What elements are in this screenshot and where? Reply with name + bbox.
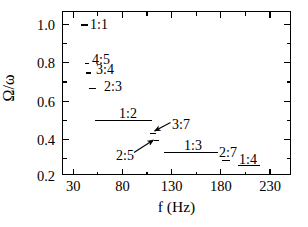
xtick-major-130 — [171, 169, 172, 175]
ytick-right-major-0.4 — [284, 139, 290, 140]
plateau-label-3-4: 3:4 — [96, 63, 114, 77]
xtick-minor-155 — [196, 172, 197, 176]
plateau-label-2-5: 2:5 — [116, 149, 134, 163]
plateau-3-7 — [150, 133, 156, 134]
xtick-top-minor-55 — [97, 12, 98, 16]
xtick-top-minor-105 — [146, 12, 147, 16]
xtick-minor-55 — [97, 172, 98, 176]
xtick-label-180: 180 — [201, 179, 241, 194]
ytick-right-minor-0.3 — [287, 158, 291, 159]
plateau-label-1-4: 1:4 — [239, 153, 257, 167]
plateau-label-3-7: 3:7 — [172, 118, 190, 132]
x-axis-title: f (Hz) — [62, 199, 291, 215]
ytick-right-minor-0.9 — [287, 43, 291, 44]
ytick-major-0.4 — [63, 139, 69, 140]
plateau-2-5 — [154, 140, 160, 141]
plateau-3-4 — [86, 72, 91, 73]
xtick-top-major-230 — [269, 12, 270, 18]
plot-frame — [62, 11, 291, 175]
ytick-right-major-0.8 — [284, 62, 290, 63]
plateau-label-2-7: 2:7 — [219, 146, 237, 160]
ytick-label-1.0: 1.0 — [19, 18, 55, 33]
xtick-label-30: 30 — [53, 179, 93, 194]
plateau-2-3 — [89, 88, 96, 89]
plateau-label-1-3: 1:3 — [184, 139, 202, 153]
ytick-right-major-0.6 — [284, 101, 290, 102]
ytick-minor-0.9 — [63, 43, 67, 44]
ytick-right-minor-0.7 — [287, 81, 291, 82]
ytick-minor-0.5 — [63, 120, 67, 121]
xtick-minor-105 — [146, 172, 147, 176]
ytick-major-0.6 — [63, 101, 69, 102]
ytick-label-0.2: 0.2 — [19, 169, 55, 184]
xtick-major-30 — [73, 169, 74, 175]
ytick-major-0.8 — [63, 62, 69, 63]
ytick-major-1.0 — [63, 24, 69, 25]
xtick-top-major-80 — [122, 12, 123, 18]
ytick-label-0.4: 0.4 — [19, 133, 55, 148]
xtick-major-80 — [122, 169, 123, 175]
xtick-minor-205 — [245, 172, 246, 176]
xtick-top-major-180 — [220, 12, 221, 18]
ytick-right-minor-0.5 — [287, 120, 291, 121]
y-axis-title: Ω/ω — [1, 58, 17, 118]
xtick-top-minor-155 — [196, 12, 197, 16]
plateau-4-5 — [85, 63, 89, 64]
xtick-major-180 — [220, 169, 221, 175]
plateau-1-1 — [81, 24, 88, 25]
xtick-label-130: 130 — [152, 179, 192, 194]
plateau-label-1-2: 1:2 — [119, 107, 137, 121]
ytick-label-0.8: 0.8 — [19, 56, 55, 71]
xtick-top-major-30 — [73, 12, 74, 18]
figure-devils-staircase: 1.0 0.8 0.6 0.4 0.2 30 80 130 180 230 f … — [0, 0, 308, 227]
xtick-top-minor-205 — [245, 12, 246, 16]
ytick-label-0.6: 0.6 — [19, 95, 55, 110]
ytick-minor-0.3 — [63, 158, 67, 159]
xtick-major-230 — [269, 169, 270, 175]
xtick-label-230: 230 — [250, 179, 290, 194]
plateau-2-7 — [222, 160, 230, 161]
plateau-label-1-1: 1:1 — [90, 18, 108, 32]
plateau-label-2-3: 2:3 — [104, 80, 122, 94]
xtick-label-80: 80 — [102, 179, 142, 194]
xtick-top-major-130 — [171, 12, 172, 18]
ytick-minor-0.7 — [63, 81, 67, 82]
ytick-right-major-1.0 — [284, 24, 290, 25]
